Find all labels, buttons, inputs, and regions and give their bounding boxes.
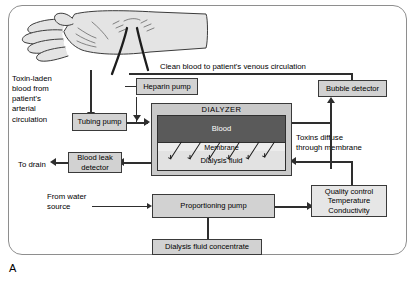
line-arterial-to-tubing-pump <box>90 70 92 115</box>
label-clean-blood-return: Clean blood to patient's venous circulat… <box>160 62 306 72</box>
line-dialyzer-blood-outlet <box>291 122 332 124</box>
box-blood-leak-detector[interactable]: Blood leak detector <box>68 152 122 173</box>
arrow-to-drain <box>50 158 56 166</box>
line-venous-return-horizontal <box>129 73 353 75</box>
panel-label-a: A <box>9 262 17 274</box>
line-bubble-detector-stem <box>330 100 332 128</box>
line-dialysate-inlet <box>296 161 353 163</box>
label-toxins-diffuse: Toxins diffuse through membrane <box>296 133 391 153</box>
dialyzer-unit[interactable]: DIALYZER Blood Membrane Dialysis fluid <box>151 103 292 176</box>
figure-panel: Toxin-laden blood from patient's arteria… <box>0 0 417 287</box>
box-bubble-detector[interactable]: Bubble detector <box>318 80 387 97</box>
box-tubing-pump[interactable]: Tubing pump <box>72 113 127 131</box>
dialyzer-chambers: Blood Membrane Dialysis fluid <box>157 115 286 171</box>
box-dialysis-fluid-concentrate[interactable]: Dialysis fluid concentrate <box>152 239 262 255</box>
arrow-into-dialyzer-blood <box>144 118 150 126</box>
line-leak-detector-to-drain <box>56 162 68 164</box>
dialyzer-dialysate-compartment: Dialysis fluid <box>158 151 285 170</box>
label-toxin-laden-blood: Toxin-laden blood from patient's arteria… <box>12 74 74 125</box>
dialyzer-blood-compartment: Blood <box>158 116 285 142</box>
arrow-heparin-into-line <box>133 115 141 121</box>
box-proportioning-pump[interactable]: Proportioning pump <box>152 194 275 218</box>
dialyzer-title: DIALYZER <box>152 105 291 114</box>
label-from-water-source: From water source <box>47 192 107 212</box>
line-water-source <box>92 206 149 207</box>
line-dialysate-out-to-leak-detector <box>122 162 153 164</box>
box-heparin-pump[interactable]: Heparin pump <box>136 78 198 95</box>
label-to-drain: To drain <box>18 160 46 170</box>
line-pump-to-quality-control <box>275 206 311 208</box>
line-concentrate-to-pump <box>207 218 209 240</box>
box-quality-control[interactable]: Quality control Temperature Conductivity <box>311 185 387 217</box>
